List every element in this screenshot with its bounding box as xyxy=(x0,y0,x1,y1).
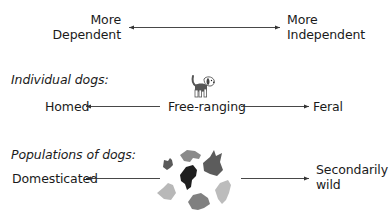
dog-icon xyxy=(193,76,215,97)
dog-heads-cluster-icon xyxy=(157,150,231,210)
diagram-graphics xyxy=(0,0,391,215)
